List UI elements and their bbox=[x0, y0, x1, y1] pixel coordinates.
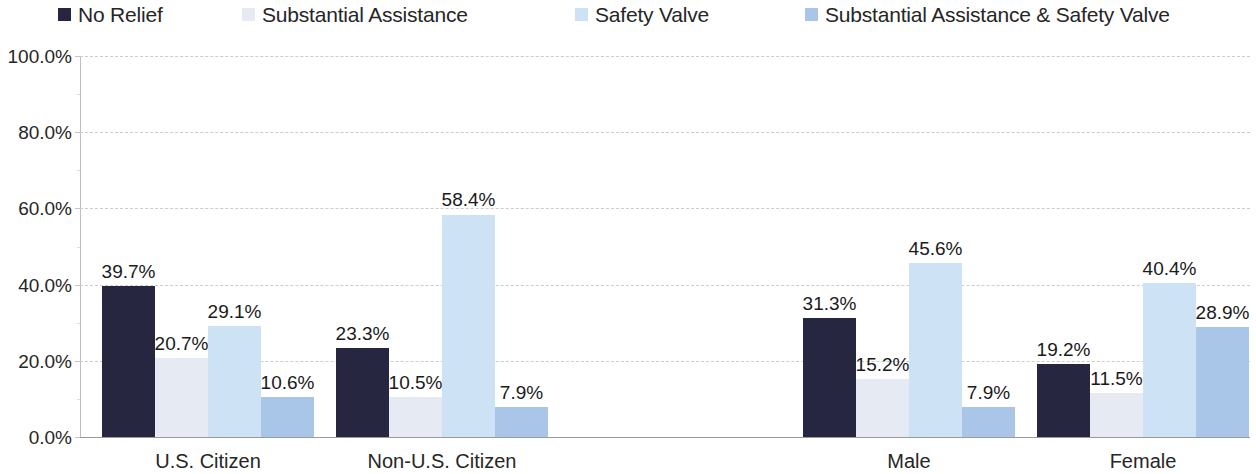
plot-area: 39.7%20.7%29.1%10.6%23.3%10.5%58.4%7.9%3… bbox=[80, 56, 1250, 437]
bar-value-label: 39.7% bbox=[89, 262, 168, 281]
bar[interactable] bbox=[495, 407, 548, 437]
legend-swatch-icon bbox=[58, 8, 71, 21]
bar[interactable] bbox=[442, 215, 495, 438]
x-axis-category-label: Non-U.S. Citizen bbox=[292, 451, 592, 471]
y-axis-tick-label: 60.0% bbox=[0, 199, 72, 218]
legend-item-label: Safety Valve bbox=[595, 4, 709, 25]
bar-chart: No ReliefSubstantial AssistanceSafety Va… bbox=[0, 0, 1256, 474]
bar-value-label: 7.9% bbox=[482, 383, 561, 402]
gridline bbox=[80, 285, 1250, 286]
gridline bbox=[80, 208, 1250, 209]
bar[interactable] bbox=[962, 407, 1015, 437]
bar-value-label: 7.9% bbox=[949, 383, 1028, 402]
bar-value-label: 19.2% bbox=[1024, 340, 1103, 359]
bar[interactable] bbox=[1196, 327, 1249, 437]
chart-legend: No ReliefSubstantial AssistanceSafety Va… bbox=[0, 0, 1256, 40]
y-axis-tick-label: 40.0% bbox=[0, 276, 72, 295]
bar-value-label: 58.4% bbox=[429, 190, 508, 209]
bar-value-label: 40.4% bbox=[1130, 259, 1209, 278]
bar[interactable] bbox=[909, 263, 962, 437]
legend-item-3[interactable]: Substantial Assistance & Safety Valve bbox=[805, 4, 1170, 25]
bar[interactable] bbox=[261, 397, 314, 437]
legend-item-label: Substantial Assistance & Safety Valve bbox=[825, 4, 1170, 25]
legend-item-0[interactable]: No Relief bbox=[58, 4, 163, 25]
y-axis-tick-label: 100.0% bbox=[0, 47, 72, 66]
y-axis-tick-label: 20.0% bbox=[0, 352, 72, 371]
y-axis-tick-label: 80.0% bbox=[0, 123, 72, 142]
bar[interactable] bbox=[389, 397, 442, 437]
x-axis-line bbox=[80, 437, 1250, 438]
bar[interactable] bbox=[856, 379, 909, 437]
legend-swatch-icon bbox=[242, 8, 255, 21]
legend-item-label: Substantial Assistance bbox=[262, 4, 468, 25]
bar-value-label: 23.3% bbox=[323, 324, 402, 343]
y-axis-tick-label: 0.0% bbox=[0, 428, 72, 447]
bar[interactable] bbox=[1090, 393, 1143, 437]
bar[interactable] bbox=[803, 318, 856, 437]
legend-swatch-icon bbox=[805, 8, 818, 21]
bar[interactable] bbox=[336, 348, 389, 437]
gridline bbox=[80, 56, 1250, 57]
bar[interactable] bbox=[155, 358, 208, 437]
bar[interactable] bbox=[102, 286, 155, 437]
x-axis-category-label: Female bbox=[993, 451, 1256, 471]
gridline bbox=[80, 132, 1250, 133]
bar-value-label: 31.3% bbox=[790, 294, 869, 313]
bar-value-label: 29.1% bbox=[195, 302, 274, 321]
legend-item-2[interactable]: Safety Valve bbox=[575, 4, 709, 25]
legend-swatch-icon bbox=[575, 8, 588, 21]
legend-item-1[interactable]: Substantial Assistance bbox=[242, 4, 468, 25]
bar-value-label: 10.6% bbox=[248, 373, 327, 392]
legend-item-label: No Relief bbox=[78, 4, 163, 25]
bar-value-label: 28.9% bbox=[1183, 303, 1256, 322]
bar-value-label: 45.6% bbox=[896, 239, 975, 258]
